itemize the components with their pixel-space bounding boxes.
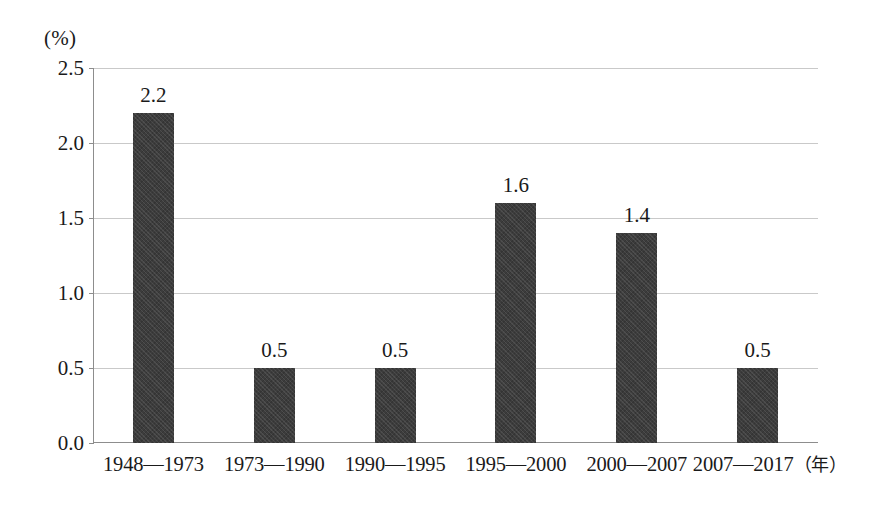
x-tick-label: 1990—1995 (345, 452, 446, 477)
y-tick-mark (89, 443, 94, 444)
bar-slot: 0.5 (375, 68, 416, 443)
bar-chart: (%) 2.5 2.0 1.5 1.0 0.5 0.0 2.20.50.51.6… (0, 0, 896, 507)
bar (133, 113, 174, 443)
bar-slot: 1.4 (616, 68, 657, 443)
y-axis-tick-labels: 2.5 2.0 1.5 1.0 0.5 0.0 (40, 68, 84, 443)
x-axis-tick-labels: 1948—19731973—19901990—19951995—20002000… (93, 452, 818, 486)
y-tick-label: 2.5 (58, 58, 84, 79)
x-tick-label: 1973—1990 (224, 452, 325, 477)
x-tick-label: 1995—2000 (466, 452, 567, 477)
bar (737, 368, 778, 443)
bar-value-label: 0.5 (744, 340, 770, 361)
bar-slot: 0.5 (254, 68, 295, 443)
y-tick-label: 1.5 (58, 208, 84, 229)
y-axis-unit-label: (%) (44, 28, 76, 49)
y-tick-label: 0.5 (58, 358, 84, 379)
bar-slot: 2.2 (133, 68, 174, 443)
bar (254, 368, 295, 443)
bar (375, 368, 416, 443)
bar (495, 203, 536, 443)
x-tick-label: 1948—1973 (103, 452, 204, 477)
bar-value-label: 0.5 (382, 340, 408, 361)
bar-series: 2.20.50.51.61.40.5 (93, 68, 818, 443)
y-tick-label: 0.0 (58, 433, 84, 454)
x-axis-unit-label: （年） (794, 454, 847, 475)
y-tick-label: 2.0 (58, 133, 84, 154)
x-tick-label: 2000—2007 (586, 452, 687, 477)
x-tick-label: 2007—2017（年） (693, 452, 847, 477)
bar-value-label: 2.2 (140, 85, 166, 106)
y-tick-label: 1.0 (58, 283, 84, 304)
bar-value-label: 0.5 (261, 340, 287, 361)
bar-slot: 1.6 (495, 68, 536, 443)
bar-value-label: 1.6 (503, 175, 529, 196)
bar (616, 233, 657, 443)
bar-value-label: 1.4 (624, 205, 650, 226)
bar-slot: 0.5 (737, 68, 778, 443)
